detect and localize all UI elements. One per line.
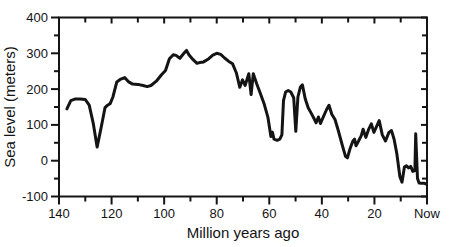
axis-ticks xyxy=(51,18,427,205)
tick-label: 120 xyxy=(101,206,123,221)
tick-label: 200 xyxy=(26,82,48,97)
tick-label: Now xyxy=(414,206,441,221)
x-axis-label: Million years ago xyxy=(187,224,300,241)
tick-label: 300 xyxy=(26,46,48,61)
tick-label: 400 xyxy=(26,10,48,25)
sea-level-curve xyxy=(67,50,426,184)
y-axis-label: Sea level (meters) xyxy=(1,46,18,168)
sea-level-chart-figure: 14012010080604020Now-1000100200300400 Mi… xyxy=(0,0,449,247)
tick-label: -100 xyxy=(22,189,48,204)
tick-label: 0 xyxy=(41,153,48,168)
tick-label: 100 xyxy=(26,117,48,132)
tick-label: 40 xyxy=(315,206,329,221)
plot-frame xyxy=(59,18,427,197)
tick-label: 20 xyxy=(367,206,381,221)
tick-label: 100 xyxy=(153,206,175,221)
sea-level-chart: 14012010080604020Now-1000100200300400 Mi… xyxy=(0,0,449,247)
tick-label: 60 xyxy=(262,206,276,221)
tick-label: 140 xyxy=(48,206,70,221)
tick-label: 80 xyxy=(209,206,223,221)
axis-tick-labels: 14012010080604020Now-1000100200300400 xyxy=(22,10,441,221)
